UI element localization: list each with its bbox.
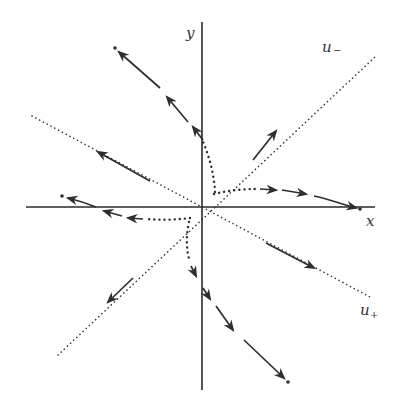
- trajectory-lower-right-seg4: [244, 340, 284, 378]
- phase-portrait-diagram: y x u − u +: [0, 0, 402, 411]
- arrow-u-minus-upper: [253, 131, 276, 160]
- trajectory-upper-left-dots: [203, 142, 215, 192]
- trajectory-left-end-dot: [60, 194, 64, 198]
- trajectory-right-seg1: [260, 189, 276, 190]
- trajectory-lower-right-dots: [187, 222, 190, 262]
- trajectory-lower-right-seg2: [203, 288, 210, 299]
- u-minus-subscript: −: [333, 45, 341, 56]
- axes: [26, 22, 375, 390]
- labels: y x u − u +: [185, 24, 378, 320]
- y-axis-label: y: [185, 24, 195, 42]
- u-minus-label: u: [322, 38, 332, 56]
- u-plus-label: u: [360, 301, 370, 319]
- arrow-u-plus-right: [266, 243, 314, 268]
- trajectories: [60, 46, 362, 384]
- trajectory-right-seg2: [282, 190, 306, 194]
- u-plus-subscript: +: [370, 309, 378, 320]
- trajectory-lower-right-end-dot: [286, 380, 290, 384]
- trajectory-left-seg3: [68, 198, 96, 207]
- arrow-u-plus-left: [98, 152, 150, 181]
- trajectory-left-seg1: [128, 218, 143, 219]
- arrow-u-minus-lower: [108, 278, 133, 302]
- trajectory-left-dots: [145, 218, 190, 220]
- eigenline-u-minus: [58, 57, 375, 355]
- trajectory-right-dots: [214, 189, 258, 194]
- eigenvector-lines: [32, 57, 375, 355]
- trajectory-lower-right-seg1: [191, 266, 196, 276]
- trajectory-upper-left-end-dot: [113, 46, 117, 50]
- trajectory-upper-left-seg3: [119, 52, 160, 88]
- trajectory-upper-left-seg2: [167, 97, 188, 122]
- trajectory-left-seg2: [104, 211, 122, 216]
- x-axis-label: x: [366, 212, 375, 230]
- trajectory-right-end-dot: [358, 207, 362, 211]
- trajectory-lower-right-seg3: [216, 306, 233, 330]
